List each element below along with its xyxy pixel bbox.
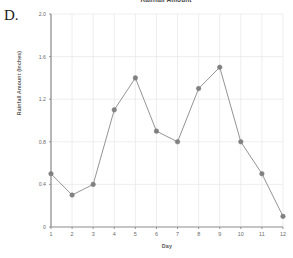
- x-tick-label: 10: [234, 231, 248, 237]
- x-tick-label: 2: [65, 231, 79, 237]
- gridlines: [51, 14, 283, 227]
- axis-ticks: [49, 14, 283, 229]
- rainfall-line-chart-figure: D. Rainfall Amount Rainfall Amount (Inch…: [0, 0, 293, 258]
- x-tick-label: 7: [171, 231, 185, 237]
- x-tick-label: 12: [276, 231, 290, 237]
- x-tick-label: 3: [86, 231, 100, 237]
- x-tick-label: 11: [255, 231, 269, 237]
- y-tick-label: 2.0: [30, 11, 46, 17]
- x-tick-label: 9: [213, 231, 227, 237]
- x-tick-label: 6: [149, 231, 163, 237]
- y-tick-label: 0.4: [30, 181, 46, 187]
- x-tick-label: 1: [44, 231, 58, 237]
- plot-area: [0, 0, 293, 258]
- y-tick-label: 1.6: [30, 54, 46, 60]
- x-tick-label: 4: [107, 231, 121, 237]
- y-tick-label: 0.8: [30, 139, 46, 145]
- axis-lines: [51, 14, 283, 227]
- x-tick-label: 8: [192, 231, 206, 237]
- y-tick-label: 1.2: [30, 96, 46, 102]
- x-tick-label: 5: [128, 231, 142, 237]
- y-tick-label: 0: [30, 224, 46, 230]
